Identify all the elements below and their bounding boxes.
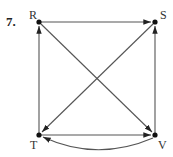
node-v	[152, 132, 157, 137]
directed-graph-figure: 7. R S T V	[0, 0, 173, 157]
problem-number: 7.	[6, 14, 16, 29]
node-r	[36, 19, 41, 24]
node-label-s: S	[160, 8, 167, 22]
node-s	[152, 19, 157, 24]
node-t	[36, 132, 41, 137]
node-label-t: T	[30, 138, 38, 152]
node-label-v: V	[158, 138, 167, 152]
edge-r-to-v	[41, 24, 152, 132]
edge-v-to-t-curved	[43, 137, 153, 150]
edge-s-to-t	[42, 24, 153, 132]
node-label-r: R	[29, 8, 37, 22]
